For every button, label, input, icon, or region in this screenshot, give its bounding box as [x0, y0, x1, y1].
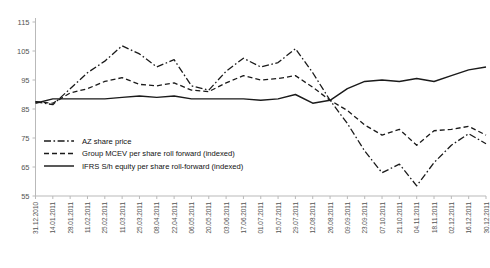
legend-label-1: Group MCEV per share roll forward (index…: [82, 149, 235, 158]
x-tick-label: 09.09.2011: [344, 202, 351, 234]
x-tick-label: 25.03.2011: [136, 202, 143, 234]
x-axis: 31.12.201014.01.201128.01.201111.02.2011…: [32, 196, 490, 234]
x-tick-label: 23.09.2011: [361, 202, 368, 234]
legend-label-0: AZ share price: [82, 137, 131, 146]
x-tick-label: 14.01.2011: [49, 202, 56, 234]
x-tick-label: 30.12.2011: [483, 202, 490, 234]
y-tick-label: 55: [21, 192, 29, 201]
legend-label-2: IFRS S/h equity per share roll-forward (…: [82, 162, 244, 171]
x-tick-label: 29.07.2011: [292, 202, 299, 234]
x-tick-label: 01.07.2011: [257, 202, 264, 234]
x-tick-label: 07.10.2011: [379, 202, 386, 234]
x-tick-label: 28.01.2011: [67, 202, 74, 234]
y-tick-label: 75: [21, 134, 29, 143]
x-tick-label: 08.04.2011: [153, 202, 160, 234]
x-tick-label: 11.03.2011: [119, 202, 126, 233]
x-tick-label: 02.12.2011: [448, 202, 455, 234]
x-tick-label: 04.11.2011: [413, 202, 420, 233]
series-line-2: [36, 67, 487, 103]
x-tick-label: 12.08.2011: [309, 202, 316, 234]
line-chart: 5565758595105115 31.12.201014.01.201128.…: [0, 0, 490, 268]
y-tick-label: 95: [21, 76, 29, 85]
x-tick-label: 25.02.2011: [101, 202, 108, 234]
y-tick-label: 85: [21, 105, 29, 114]
x-tick-label: 15.07.2011: [275, 202, 282, 234]
y-tick-label: 115: [18, 18, 30, 27]
y-tick-label: 65: [21, 163, 29, 172]
x-tick-label: 20.05.2011: [205, 202, 212, 234]
series-line-1: [36, 76, 487, 146]
x-tick-label: 11.02.2011: [84, 202, 91, 233]
x-tick-label: 17.06.2011: [240, 202, 247, 234]
x-tick-label: 18.11.2011: [431, 202, 438, 233]
x-tick-label: 31.12.2010: [32, 202, 39, 234]
x-tick-label: 16.12.2011: [465, 202, 472, 234]
x-tick-label: 22.04.2011: [171, 202, 178, 234]
y-axis: 5565758595105115: [17, 18, 36, 201]
x-tick-label: 03.06.2011: [223, 202, 230, 234]
x-tick-label: 06.05.2011: [188, 202, 195, 234]
chart-container: 5565758595105115 31.12.201014.01.201128.…: [0, 0, 490, 268]
y-tick-label: 105: [17, 47, 30, 56]
x-tick-label: 21.10.2011: [396, 202, 403, 234]
chart-legend: AZ share priceGroup MCEV per share roll …: [44, 137, 244, 171]
x-tick-label: 26.08.2011: [327, 202, 334, 234]
